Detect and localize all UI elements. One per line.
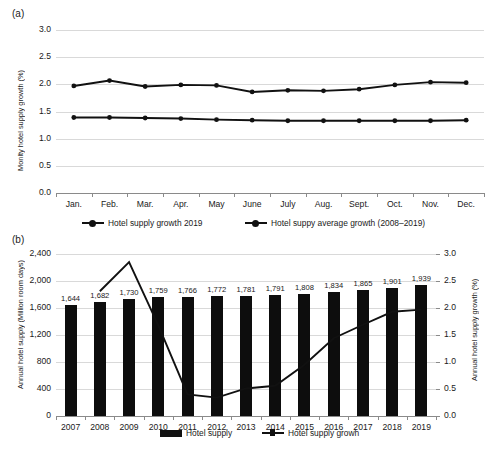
- x-tick-label: 2019: [403, 422, 439, 432]
- x-tick-mark: [407, 416, 408, 420]
- y-tick-label-left: 0: [14, 410, 51, 420]
- x-tick-label: Dec.: [440, 199, 492, 209]
- y-tick-label-right: 3.0: [444, 248, 470, 258]
- y-tick-label-right: 1.0: [444, 356, 470, 366]
- panel-b-y-axis-title-left: Annual hotel supply (Million room days): [16, 250, 25, 400]
- x-tick-mark: [436, 416, 437, 420]
- y-tick-mark-right: [436, 308, 440, 309]
- y-tick-mark-right: [436, 362, 440, 363]
- panel-a-legend-label-2019: Hotel supply growth 2019: [108, 218, 203, 228]
- y-tick-label-left: 1,600: [14, 302, 51, 312]
- x-tick-mark: [348, 416, 349, 420]
- y-tick-label-right: 2.0: [444, 302, 470, 312]
- y-tick-mark-right: [436, 254, 440, 255]
- x-tick-mark: [163, 193, 164, 197]
- y-tick-label-right: 2.5: [444, 275, 470, 285]
- x-tick-mark: [202, 416, 203, 420]
- y-tick-label-right: 0.5: [444, 383, 470, 393]
- x-tick-mark: [127, 193, 128, 197]
- y-tick-label: 1.0: [16, 133, 51, 143]
- x-tick-mark: [378, 416, 379, 420]
- panel-b-y-axis-title-right: Annual hotel supply growth (%): [470, 260, 479, 400]
- y-tick-label: 3.0: [16, 24, 51, 34]
- x-tick-mark: [114, 416, 115, 420]
- panel-a-monthly-growth-chart: (a) Monlty hotel supply growth (%) 0.00.…: [0, 0, 496, 232]
- x-tick-mark: [56, 416, 57, 420]
- y-tick-label-right: 1.5: [444, 329, 470, 339]
- x-tick-mark: [234, 193, 235, 197]
- y-tick-label: 2.5: [16, 51, 51, 61]
- y-tick-label-left: 2,400: [14, 248, 51, 258]
- line-marker-icon: [245, 222, 267, 224]
- y-tick-mark-right: [436, 335, 440, 336]
- y-tick-label-left: 400: [14, 383, 51, 393]
- x-tick-mark: [261, 416, 262, 420]
- y-tick-label: 0.0: [16, 187, 51, 197]
- x-tick-mark: [319, 416, 320, 420]
- y-tick-label-left: 2,000: [14, 275, 51, 285]
- x-tick-mark: [144, 416, 145, 420]
- panel-a-letter: (a): [12, 8, 24, 19]
- panel-b-legend-item-supply: Hotel supply: [160, 428, 232, 438]
- panel-b-growth-line: [56, 254, 436, 416]
- x-tick-mark: [290, 416, 291, 420]
- x-tick-mark: [341, 193, 342, 197]
- y-tick-label: 2.0: [16, 78, 51, 88]
- y-tick-label-right: 0.0: [444, 410, 470, 420]
- x-tick-mark: [377, 193, 378, 197]
- x-tick-mark: [92, 193, 93, 197]
- x-tick-mark: [56, 193, 57, 197]
- x-tick-mark: [413, 193, 414, 197]
- gridline: [56, 416, 436, 417]
- x-tick-mark: [199, 193, 200, 197]
- bar-swatch-icon: [160, 430, 182, 437]
- line-marker-icon: [82, 222, 104, 224]
- panel-b-legend-item-growth: Hotel supply growh: [262, 428, 359, 438]
- x-tick-mark: [306, 193, 307, 197]
- panel-b-annual-supply-chart: (b) Annual hotel supply (Million room da…: [0, 232, 496, 452]
- y-tick-label-left: 1,200: [14, 329, 51, 339]
- x-tick-mark: [85, 416, 86, 420]
- x-tick-mark: [173, 416, 174, 420]
- y-tick-label: 1.5: [16, 106, 51, 116]
- panel-b-letter: (b): [12, 234, 24, 245]
- panel-b-legend-label-supply: Hotel supply: [186, 428, 232, 438]
- panel-b-legend-label-growth: Hotel supply growh: [288, 428, 359, 438]
- x-tick-mark: [484, 193, 485, 197]
- x-tick-mark: [270, 193, 271, 197]
- x-tick-mark: [231, 416, 232, 420]
- panel-a-legend-label-average: Hotel suppy average growth (2008–2019): [271, 218, 425, 228]
- panel-a-legend-item-average: Hotel suppy average growth (2008–2019): [245, 218, 425, 228]
- x-tick-mark: [448, 193, 449, 197]
- panel-a-series-lines: [56, 30, 484, 193]
- line-marker-icon: [262, 432, 284, 434]
- y-tick-label-left: 800: [14, 356, 51, 366]
- y-tick-mark-right: [436, 389, 440, 390]
- y-tick-label: 0.5: [16, 160, 51, 170]
- panel-a-legend-item-2019: Hotel supply growth 2019: [82, 218, 203, 228]
